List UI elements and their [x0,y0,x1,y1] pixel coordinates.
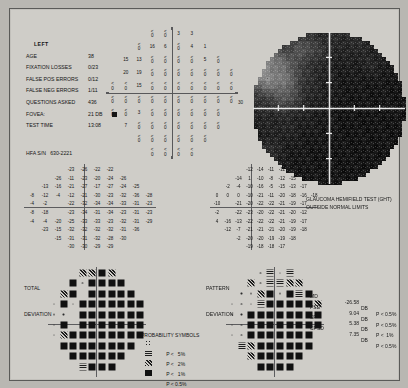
deviation-value: -13 [289,184,296,189]
horizontal-axis [24,207,156,208]
deviation-value: -20 [279,227,286,232]
deviation-value: -36 [133,227,140,232]
threshold-point: <0 [151,69,154,77]
deviation-value: -21 [257,227,264,232]
probability-symbol [118,280,125,287]
probability-symbol [60,290,67,297]
probability-symbol [118,311,125,318]
deviation-value: -30 [81,244,88,249]
threshold-point: <0 [138,95,141,103]
threshold-point: <0 [217,95,220,103]
probability-symbol [296,290,303,297]
threshold-point: <0 [217,109,220,117]
deviation-value: -32 [94,235,101,240]
deviation-value: -19 [279,235,286,240]
deviation-value: -20 [257,235,264,240]
deviation-value: -18 [257,244,264,249]
deviation-value: -23 [42,227,49,232]
deviation-value: -12 [279,175,286,180]
probability-symbol [89,290,96,297]
deviation-value: -22 [235,210,242,215]
probability-symbol [257,342,264,349]
deviation-value: -13 [42,184,49,189]
probability-symbol [277,301,284,308]
global-indices-block: MD -26.58 DB P < 0.5% PSD 9.04 DB P < 0.… [310,287,321,329]
index-unit: DB [361,316,368,322]
deviation-value: -32 [107,227,114,232]
probability-symbol [229,332,236,339]
threshold-point: <0 [164,56,167,64]
threshold-point: <0 [164,122,167,130]
threshold-point: <0 [111,109,114,117]
probability-symbol [108,290,115,297]
deviation-value: -2 [43,201,47,206]
probability-symbols-legend: PROBABILITY SYMBOLS P < 5% P < 2% P < 1%… [141,332,199,378]
threshold-point: <0 [217,56,220,64]
threshold-point: <0 [230,95,233,103]
probability-symbol [99,342,106,349]
probability-symbol [79,332,86,339]
threshold-point: <0 [177,95,180,103]
probability-symbol [127,342,134,349]
deviation-value: -24 [120,184,127,189]
deviation-value: -19 [289,201,296,206]
probability-symbol [99,270,106,277]
ght-result: OUTSIDE NORMAL LIMITS [306,203,392,211]
field-key: FIXATION LOSSES [26,64,72,70]
probability-symbol [99,290,106,297]
deviation-value: -4 [30,201,34,206]
vertical-axis [274,267,275,377]
threshold-point: <0 [138,122,141,130]
probability-symbol [108,353,115,360]
deviation-value: -22 [107,167,114,172]
threshold-point: <0 [124,95,127,103]
deviation-value: -8 [30,192,34,197]
threshold-point: 16 [150,44,155,49]
field-value: 0/23 [88,64,98,70]
deviation-value: -22 [94,167,101,172]
probability-symbol [296,280,303,287]
probability-symbol [127,290,134,297]
probability-symbol [127,322,134,329]
deviation-value: -22 [68,201,75,206]
deviation-value: -31 [94,210,101,215]
probability-symbol [257,311,264,318]
threshold-point: <0 [138,43,141,51]
deviation-value: -29 [107,244,114,249]
threshold-point: <0 [177,82,180,90]
deviation-value: -10 [246,184,253,189]
probability-symbol [248,311,255,318]
threshold-point: <0 [151,122,154,130]
total-deviation-numeric-grid: -23-26-22-22-26-11-23-20-24-26-13-16-21-… [24,164,156,250]
legend-title: PROBABILITY SYMBOLS [141,332,199,338]
field-value: 436 [88,99,97,105]
index-pvalue: P < 0.5% [376,322,396,328]
index-name: CPSD [310,325,324,331]
probability-symbol [238,322,245,329]
deviation-value: -20 [279,192,286,197]
threshold-point: <0 [151,135,154,143]
field-key: AGE [26,53,37,59]
axis-tick [235,92,238,93]
probability-symbol [118,322,125,329]
index-pvalue: P < 0.5% [376,311,396,317]
probability-symbol [229,311,236,318]
threshold-point: <0 [151,29,154,37]
probability-symbol [89,270,96,277]
global-index-row: SF 5.38 DB P < 1% [310,308,321,319]
threshold-point: 3 [177,31,180,36]
deviation-value: -23 [146,210,153,215]
deviation-value: -23 [68,167,75,172]
probability-symbol [267,332,274,339]
probability-symbol [277,270,284,277]
probability-symbol [267,311,274,318]
index-value: 9.04 [329,310,359,316]
probability-symbol [51,322,58,329]
probability-symbol [286,290,293,297]
probability-symbol [89,363,96,370]
threshold-point: <0 [190,122,193,130]
probability-symbol [108,280,115,287]
probability-symbol [108,270,115,277]
deviation-value: -33 [81,218,88,223]
deviation-value: -33 [94,218,101,223]
